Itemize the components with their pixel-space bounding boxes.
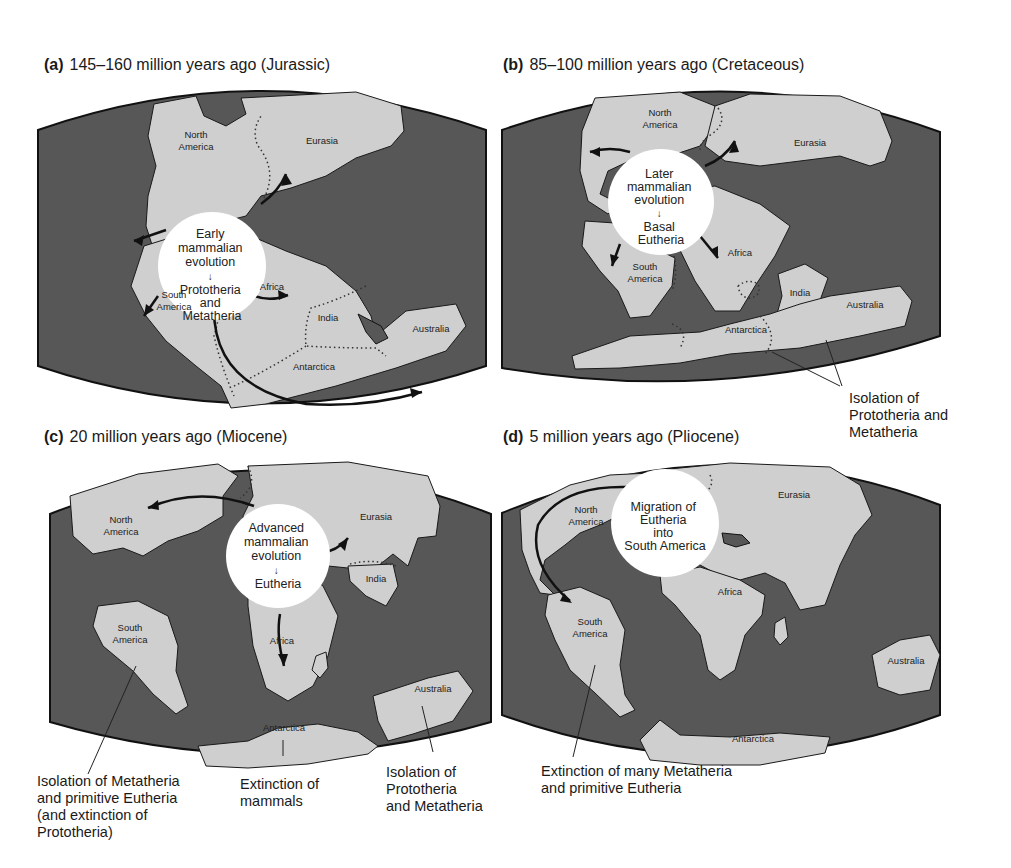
panel-a-title-text: 145–160 million years ago (Jurassic) xyxy=(70,56,331,73)
panel-a-letter: (a) xyxy=(44,56,64,73)
panel-d-map: Migration of Eutheria into South America… xyxy=(500,455,945,775)
svg-text:Eurasia: Eurasia xyxy=(794,137,827,148)
panel-d-label-eurasia: Eurasia xyxy=(778,489,811,500)
panel-c-label-australia: Australia xyxy=(415,683,453,694)
panel-a-label-africa: Africa xyxy=(260,281,285,292)
panel-b-letter: (b) xyxy=(503,56,523,73)
panel-b-label-australia: Australia xyxy=(847,299,885,310)
panel-b-eurasia xyxy=(705,94,892,166)
panel-c-title-text: 20 million years ago (Miocene) xyxy=(70,428,288,445)
panel-d-title: (d)5 million years ago (Pliocene) xyxy=(503,428,739,446)
panel-d-letter: (d) xyxy=(503,428,523,445)
panel-b-label-india: India xyxy=(790,287,811,298)
panel-c-title: (c)20 million years ago (Miocene) xyxy=(44,428,287,446)
panel-c-map: Advanced mammalian evolution ↓ Eutheria … xyxy=(48,456,493,776)
panel-b-map: Later mammalian evolution ↓ Basal Euther… xyxy=(500,86,950,416)
panel-b-label-africa: Africa xyxy=(728,247,753,258)
panel-a-label-antarctica: Antarctica xyxy=(293,361,336,372)
panel-b-title-text: 85–100 million years ago (Cretaceous) xyxy=(529,56,804,73)
panel-c-letter: (c) xyxy=(44,428,64,445)
panel-c-label-africa: Africa xyxy=(270,635,295,646)
panel-b-label-antarctica: Antarctica xyxy=(725,324,768,335)
panel-c-annotation-isolation-prototheria: Isolation of Prototheria and Metatheria xyxy=(386,764,483,815)
panel-a-title: (a)145–160 million years ago (Jurassic) xyxy=(44,56,330,74)
panel-d-label-antarctica: Antarctica xyxy=(732,733,775,744)
panel-d-label-africa: Africa xyxy=(718,586,743,597)
panel-d-label-australia: Australia xyxy=(888,655,926,666)
panel-d-annotation-extinction: Extinction of many Metatheria and primit… xyxy=(541,763,732,797)
panel-c-label-india: India xyxy=(366,573,387,584)
panel-c-label-antarctica: Antarctica xyxy=(263,722,306,733)
panel-a-label-india: India xyxy=(318,312,339,323)
panel-c-label-eurasia: Eurasia xyxy=(360,511,393,522)
panel-b-title: (b)85–100 million years ago (Cretaceous) xyxy=(503,56,804,74)
panel-a-map: Early mammalian evolution ↓ Prototheria … xyxy=(36,86,488,416)
panel-b-annotation-isolation: Isolation of Prototheria and Metatheria xyxy=(849,390,948,441)
panel-c-annotation-isolation-metatheria: Isolation of Metatheria and primitive Eu… xyxy=(37,773,180,841)
panel-a-label-eurasia: Eurasia xyxy=(306,135,339,146)
panel-d-title-text: 5 million years ago (Pliocene) xyxy=(529,428,739,445)
panel-a-label-australia: Australia xyxy=(413,323,451,334)
panel-c-annotation-extinction-mammals: Extinction of mammals xyxy=(240,776,319,810)
